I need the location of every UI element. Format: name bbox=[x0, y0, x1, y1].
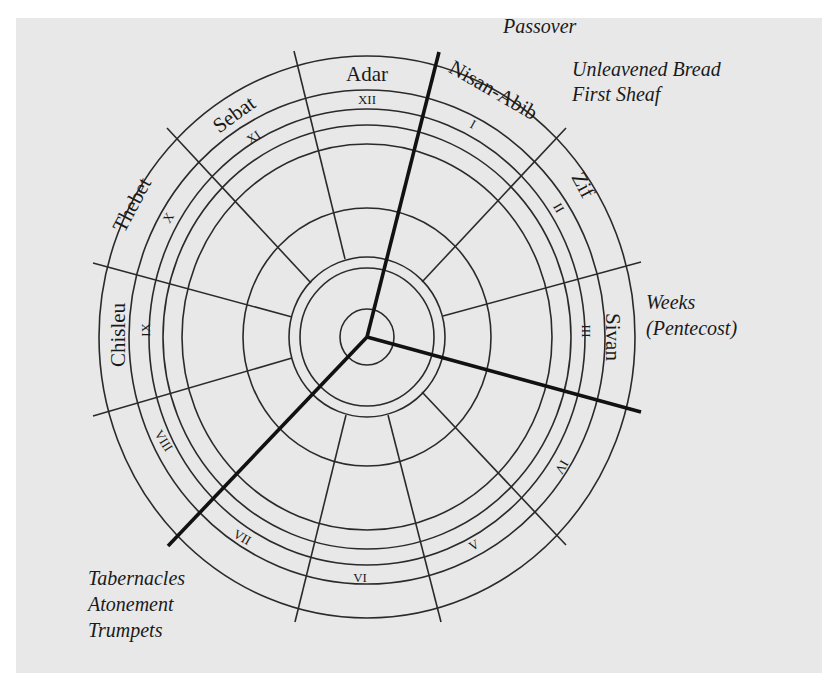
numeral-iii: III bbox=[579, 325, 594, 338]
month-zif: Zif bbox=[567, 168, 600, 202]
numeral-iv: IV bbox=[552, 458, 572, 478]
month-thebet: Thebet bbox=[108, 173, 157, 236]
pentecost-spoke bbox=[367, 337, 641, 412]
feast-first-sheaf: First Sheaf bbox=[571, 83, 663, 106]
feast-tabernacles: Tabernacles bbox=[88, 567, 185, 589]
feast-labels: Passover Unleavened Bread First Sheaf We… bbox=[86, 15, 737, 642]
numeral-v: V bbox=[466, 536, 482, 554]
numeral-i: I bbox=[468, 116, 479, 131]
feast-pentecost: (Pentecost) bbox=[646, 317, 737, 340]
feast-weeks: Weeks bbox=[646, 291, 695, 313]
passover-spoke bbox=[367, 52, 439, 337]
month-adar: Adar bbox=[346, 62, 388, 86]
feast-atonement: Atonement bbox=[86, 593, 174, 615]
month-nisan-abib: Nisan-Abib bbox=[445, 55, 542, 125]
feast-unleavened-bread: Unleavened Bread bbox=[572, 58, 722, 80]
numeral-x: X bbox=[159, 209, 177, 225]
numeral-ii: II bbox=[550, 200, 567, 215]
numeral-xi: XI bbox=[244, 127, 264, 147]
feast-passover: Passover bbox=[502, 15, 577, 37]
numeral-xii: XII bbox=[358, 92, 376, 107]
numeral-vi: VI bbox=[353, 570, 367, 585]
month-sivan: Sivan bbox=[601, 313, 625, 361]
feast-trumpets: Trumpets bbox=[88, 619, 163, 642]
numeral-ix: IX bbox=[138, 323, 153, 337]
tabernacles-spoke bbox=[168, 337, 367, 546]
calendar-wheel: Adar Nisan-Abib Zif Sivan Sebat Thebet C… bbox=[0, 0, 837, 684]
feast-spokes bbox=[168, 52, 641, 546]
month-chisleu: Chisleu bbox=[106, 302, 130, 367]
